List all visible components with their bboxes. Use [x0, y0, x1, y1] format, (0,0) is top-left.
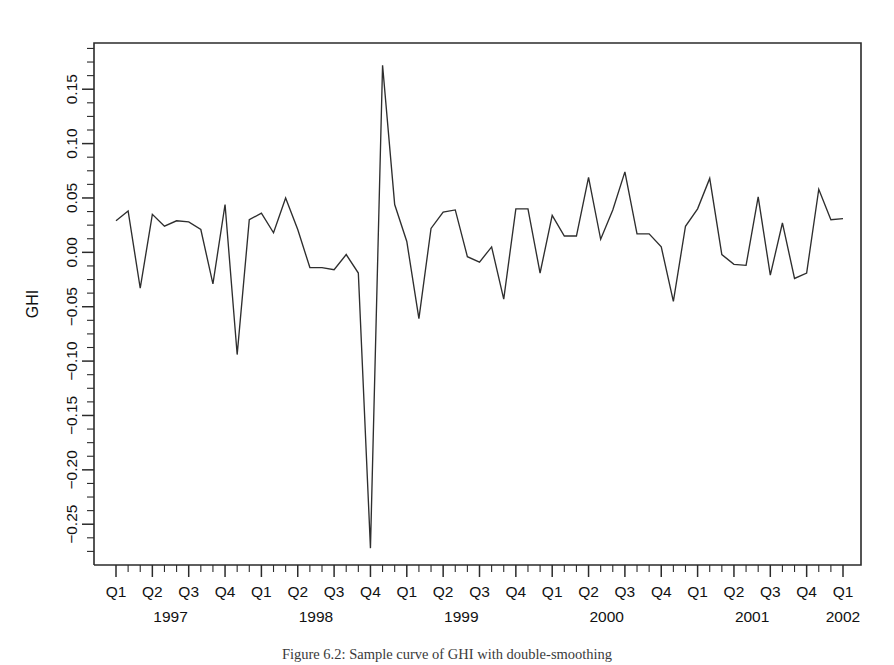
x-tick-label-year: 1999	[444, 608, 478, 625]
x-tick-label-year: 1997	[153, 608, 187, 625]
y-tick-label: −0.10	[63, 341, 80, 381]
x-tick-label-quarter: Q1	[833, 583, 854, 600]
x-tick-label-quarter: Q2	[578, 583, 599, 600]
x-tick-label-quarter: Q3	[615, 583, 636, 600]
x-tick-label-quarter: Q1	[396, 583, 417, 600]
x-tick-label-year: 2002	[826, 608, 860, 625]
y-tick-label: 0.00	[63, 237, 80, 268]
x-tick-label-quarter: Q1	[542, 583, 563, 600]
x-tick-label-quarter: Q3	[760, 583, 781, 600]
y-tick-label: 0.10	[63, 128, 80, 159]
plot-frame	[94, 43, 861, 565]
x-tick-label-quarter: Q1	[251, 583, 272, 600]
x-tick-label-quarter: Q2	[287, 583, 308, 600]
x-tick-label-year: 1998	[299, 608, 333, 625]
x-tick-label-quarter: Q3	[178, 583, 199, 600]
y-tick-label: −0.20	[63, 450, 80, 490]
x-tick-label-quarter: Q4	[796, 583, 817, 600]
figure-container: 0.150.100.050.00−0.05−0.10−0.15−0.20−0.2…	[0, 0, 894, 665]
x-tick-label-year: 2000	[589, 608, 624, 625]
y-tick-label: −0.25	[63, 505, 80, 544]
x-tick-label-quarter: Q4	[506, 583, 527, 600]
y-axis-title: GHI	[24, 290, 41, 318]
series-line-ghi	[116, 65, 843, 548]
y-tick-label: 0.05	[63, 183, 80, 213]
x-tick-label-quarter: Q2	[724, 583, 745, 600]
x-tick-label-quarter: Q2	[142, 583, 163, 600]
y-tick-label: 0.15	[63, 74, 80, 104]
x-tick-label-quarter: Q1	[106, 583, 127, 600]
y-tick-label: −0.05	[63, 287, 80, 326]
x-tick-label-quarter: Q4	[215, 583, 236, 600]
ghi-line-chart: 0.150.100.050.00−0.05−0.10−0.15−0.20−0.2…	[0, 0, 894, 665]
x-tick-label-quarter: Q3	[324, 583, 345, 600]
figure-caption: Figure 6.2: Sample curve of GHI with dou…	[282, 646, 612, 662]
x-tick-label-quarter: Q4	[651, 583, 672, 600]
x-tick-label-quarter: Q3	[469, 583, 490, 600]
x-tick-label-quarter: Q4	[360, 583, 381, 600]
x-tick-label-year: 2001	[735, 608, 769, 625]
x-tick-label-quarter: Q2	[433, 583, 454, 600]
x-tick-label-quarter: Q1	[687, 583, 708, 600]
y-tick-label: −0.15	[63, 396, 80, 435]
